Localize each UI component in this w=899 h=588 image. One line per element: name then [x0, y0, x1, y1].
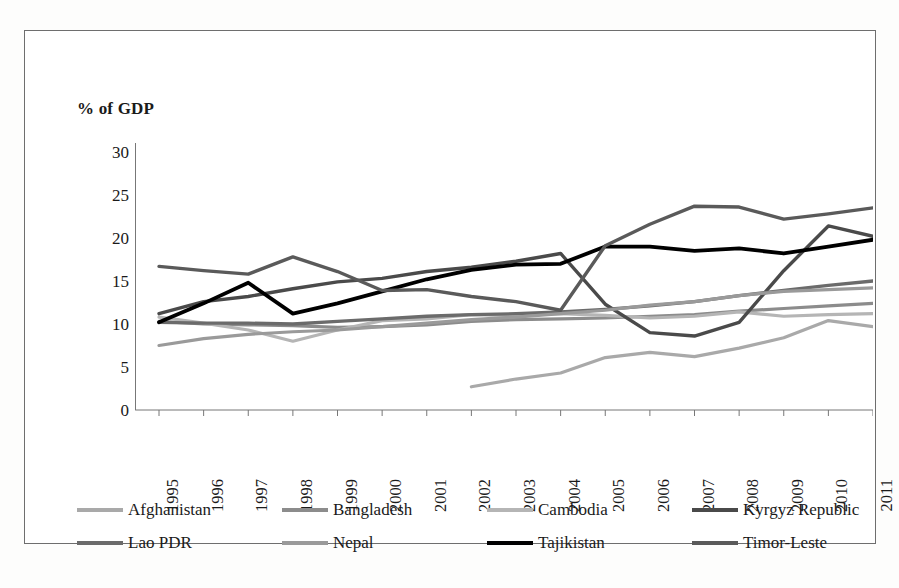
y-axis-tick-label: 5 [95, 359, 129, 376]
series-line [471, 321, 873, 387]
legend-label: Bangladesh [333, 500, 412, 520]
y-axis-tick-label: 30 [95, 144, 129, 161]
legend-swatch-icon [692, 508, 738, 512]
figure-frame: % of GDP 051015202530 199519961997199819… [24, 30, 876, 544]
x-axis-ticks [159, 410, 873, 416]
legend-swatch-icon [77, 508, 123, 512]
legend-swatch-icon [282, 541, 328, 545]
line-chart-svg [135, 143, 873, 421]
legend-item[interactable]: Tajikistan [487, 533, 692, 553]
y-axis-unit-label: % of GDP [77, 99, 154, 119]
legend-label: Afghanistan [128, 500, 211, 520]
legend-item[interactable]: Cambodia [487, 500, 692, 520]
legend-label: Nepal [333, 533, 374, 553]
legend-label: Timor-Leste [743, 533, 827, 553]
y-axis-tick-label: 0 [95, 402, 129, 419]
legend-swatch-icon [487, 541, 533, 545]
legend-item[interactable]: Nepal [282, 533, 487, 553]
y-axis-tick-label: 10 [95, 316, 129, 333]
legend-label: Tajikistan [538, 533, 605, 553]
y-axis-tick-label: 25 [95, 187, 129, 204]
legend-item[interactable]: Lao PDR [77, 533, 282, 553]
y-axis-tick-label: 15 [95, 273, 129, 290]
legend-item[interactable]: Timor-Leste [692, 533, 897, 553]
legend-item[interactable]: Kyrgyz Republic [692, 500, 897, 520]
legend-swatch-icon [692, 541, 738, 545]
scanned-page: % of GDP 051015202530 199519961997199819… [0, 0, 899, 588]
legend-item[interactable]: Bangladesh [282, 500, 487, 520]
legend-label: Cambodia [538, 500, 608, 520]
axis-lines [136, 143, 874, 410]
y-axis-tick-label: 20 [95, 230, 129, 247]
chart-legend: AfghanistanBangladeshCambodiaKyrgyz Repu… [77, 493, 877, 559]
series-lines [159, 206, 873, 387]
legend-label: Kyrgyz Republic [743, 500, 859, 520]
legend-swatch-icon [282, 508, 328, 512]
legend-swatch-icon [77, 541, 123, 545]
y-axis-tick-labels: 051015202530 [87, 143, 129, 421]
x-axis-tick-labels: 1995199619971998199920002001200220032004… [135, 423, 873, 485]
legend-item[interactable]: Afghanistan [77, 500, 282, 520]
legend-swatch-icon [487, 508, 533, 512]
plot-area [135, 143, 873, 421]
legend-label: Lao PDR [128, 533, 192, 553]
